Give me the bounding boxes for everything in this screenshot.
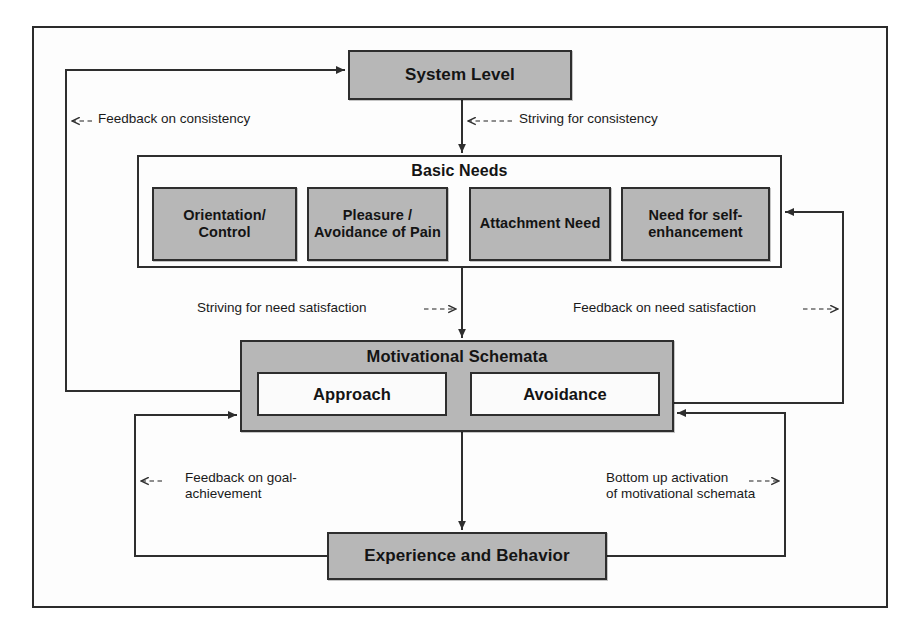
node-schema-approach[interactable]: Approach bbox=[257, 372, 447, 416]
motivational-schemata-title: Motivational Schemata bbox=[242, 347, 672, 366]
edge-label-striving-for-consistency: Striving for consistency bbox=[519, 111, 658, 127]
schema-approach-label: Approach bbox=[313, 385, 391, 404]
node-experience-and-behavior[interactable]: Experience and Behavior bbox=[327, 532, 607, 580]
edge-label-bottom-up-activation: Bottom up activation of motivational sch… bbox=[606, 470, 755, 503]
need-attachment-label: Attachment Need bbox=[480, 215, 601, 232]
edge-label-feedback-on-need-satisfaction: Feedback on need satisfaction bbox=[573, 300, 756, 316]
node-basic-needs-container[interactable]: Basic Needs Orientation/ Control Pleasur… bbox=[137, 155, 782, 268]
experience-and-behavior-label: Experience and Behavior bbox=[364, 546, 569, 566]
schema-avoidance-label: Avoidance bbox=[523, 385, 607, 404]
node-need-self-enhancement[interactable]: Need for self- enhancement bbox=[621, 187, 770, 261]
node-system-level[interactable]: System Level bbox=[348, 50, 572, 100]
edge-label-feedback-on-goal-achievement: Feedback on goal- achievement bbox=[185, 470, 297, 503]
need-orientation-control-label: Orientation/ Control bbox=[156, 207, 293, 241]
basic-needs-title: Basic Needs bbox=[139, 162, 780, 180]
node-need-pleasure-avoidance-of-pain[interactable]: Pleasure / Avoidance of Pain bbox=[307, 187, 448, 261]
node-schema-avoidance[interactable]: Avoidance bbox=[470, 372, 660, 416]
need-self-enhancement-label: Need for self- enhancement bbox=[625, 207, 766, 241]
node-need-attachment[interactable]: Attachment Need bbox=[469, 187, 611, 261]
node-motivational-schemata-container[interactable]: Motivational Schemata Approach Avoidance bbox=[240, 340, 674, 432]
system-level-label: System Level bbox=[405, 65, 515, 85]
node-need-orientation-control[interactable]: Orientation/ Control bbox=[152, 187, 297, 261]
edge-label-feedback-on-consistency: Feedback on consistency bbox=[98, 111, 250, 127]
need-pleasure-avoidance-of-pain-label: Pleasure / Avoidance of Pain bbox=[311, 207, 444, 241]
edge-label-striving-for-need-satisfaction: Striving for need satisfaction bbox=[197, 300, 367, 316]
diagram-page: System Level Basic Needs Orientation/ Co… bbox=[0, 0, 914, 639]
